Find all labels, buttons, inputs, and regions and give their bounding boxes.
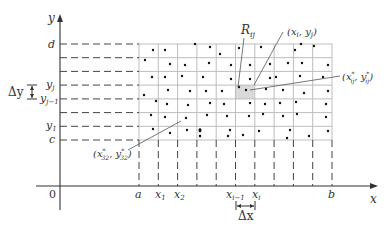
leader-lines xyxy=(128,32,340,150)
delta-x-label: Δx xyxy=(238,209,254,223)
y-tick-d: d xyxy=(48,38,55,51)
delta-x-arrow-left-icon xyxy=(237,204,241,208)
y-tick-y1: y1 xyxy=(45,119,57,133)
x-axis-label: x xyxy=(370,192,377,206)
y-partition-dashes xyxy=(60,44,139,140)
y-tick-yj: yj xyxy=(45,78,55,92)
x-tick-b: b xyxy=(328,188,335,201)
sample-point-32-label: (x*32, y*32) xyxy=(93,147,132,161)
y-tick-yj-1: yj−1 xyxy=(39,92,59,106)
y-axis-arrow-icon xyxy=(57,14,63,22)
origin-label: 0 xyxy=(49,188,56,201)
delta-y-arrow-up-icon xyxy=(30,86,34,90)
x-tick-x2: x2 xyxy=(174,188,185,202)
delta-x-arrow-right-icon xyxy=(250,204,254,208)
x-partition-dashes xyxy=(139,140,332,186)
axes xyxy=(36,17,376,210)
y-axis-label: y xyxy=(47,11,55,25)
x-tick-xi: xi xyxy=(252,188,260,202)
partition-grid xyxy=(139,44,332,140)
x-tick-a: a xyxy=(135,188,142,201)
double-integral-diagram: y x 0 d yj yj−1 y1 c Δy a x1 x2 xi−1 xi … xyxy=(0,0,386,226)
x-tick-xi-1: xi−1 xyxy=(226,188,245,202)
x-axis-arrow-icon xyxy=(370,183,378,189)
y-tick-c: c xyxy=(49,133,55,146)
delta-y-arrow-down-icon xyxy=(30,94,34,98)
corner-point-label: (xi, yj) xyxy=(287,26,317,39)
sample-point-ij-label: (x*ij, y*ij) xyxy=(342,70,373,85)
x-tick-x1: x1 xyxy=(155,188,166,202)
rect-label-Rij: Rij xyxy=(240,23,256,39)
delta-y-label: Δy xyxy=(8,85,24,99)
